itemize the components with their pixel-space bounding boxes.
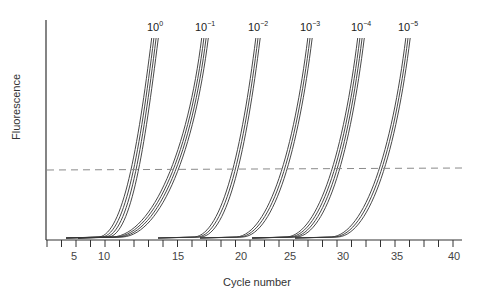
x-tick-label: 10 — [98, 250, 110, 262]
x-tick-label: 15 — [172, 250, 184, 262]
amplification-curve — [66, 38, 152, 238]
x-tick-label: 40 — [448, 250, 460, 262]
x-tick-label: 25 — [284, 250, 296, 262]
series-label: 10−3 — [300, 20, 320, 33]
threshold-line — [47, 168, 463, 170]
amplification-curve — [200, 38, 310, 238]
amplification-curve — [78, 38, 204, 238]
x-axis-ticks — [47, 240, 453, 247]
x-tick-label: 35 — [391, 250, 403, 262]
amplification-curve — [66, 38, 158, 238]
amplification-curve — [295, 38, 408, 238]
y-axis-label: Fluorescence — [10, 74, 22, 140]
series-label: 10−5 — [398, 20, 418, 33]
x-tick-label: 20 — [235, 250, 247, 262]
amplification-curve — [158, 38, 258, 238]
amplification-curve — [158, 38, 256, 238]
amplification-curve — [158, 38, 260, 238]
amplification-curve — [252, 38, 362, 238]
series-label: 10−4 — [351, 20, 371, 33]
amplification-curve — [78, 38, 208, 238]
x-axis-label: Cycle number — [223, 276, 291, 288]
x-tick-label: 30 — [337, 250, 349, 262]
amplification-curve — [295, 38, 406, 238]
amplification-curve — [252, 38, 358, 238]
amplification-curves — [66, 38, 410, 238]
series-label: 10−2 — [248, 20, 268, 33]
amplification-curve — [295, 38, 410, 238]
series-label: 10−1 — [195, 20, 215, 33]
amplification-curve — [66, 38, 154, 238]
series-label: 100 — [147, 20, 163, 33]
x-tick-label: 5 — [71, 250, 77, 262]
amplification-curve — [66, 38, 156, 238]
